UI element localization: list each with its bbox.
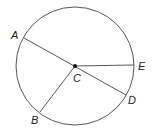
label-c: C [73, 72, 81, 84]
center-point [73, 64, 77, 68]
radius-cb [40, 66, 75, 112]
label-d: D [128, 94, 136, 106]
label-b: B [31, 114, 38, 126]
label-a: A [10, 29, 18, 41]
label-e: E [138, 60, 146, 72]
radius-ce [75, 65, 134, 66]
circle-diagram: A B C D E [0, 0, 153, 135]
